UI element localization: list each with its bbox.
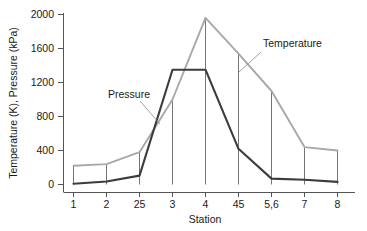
x-axis-ticks bbox=[74, 193, 338, 198]
y-axis-title: Temperature (K), Pressure (kPa) bbox=[7, 27, 19, 179]
y-tick-label-800: 800 bbox=[36, 110, 54, 122]
x-tick-label-56: 5,6 bbox=[264, 198, 279, 210]
y-tick-label-400: 400 bbox=[36, 144, 54, 156]
x-tick-label-25: 25 bbox=[134, 198, 146, 210]
x-tick-label-7: 7 bbox=[302, 198, 308, 210]
y-axis-ticks bbox=[58, 15, 64, 185]
temperature-annotation-leader bbox=[239, 52, 261, 72]
pressure-annotation-label: Pressure bbox=[108, 88, 150, 100]
x-tick-label-8: 8 bbox=[335, 198, 341, 210]
station-temperature-pressure-chart: 2000 1600 1200 800 400 0 Temperature (K)… bbox=[0, 0, 367, 231]
pressure-annotation-leader bbox=[140, 101, 160, 124]
x-axis-tick-labels: 1 2 25 3 4 45 5,6 7 8 bbox=[71, 198, 341, 210]
y-tick-label-1600: 1600 bbox=[31, 42, 55, 54]
x-tick-label-3: 3 bbox=[170, 198, 176, 210]
x-tick-label-2: 2 bbox=[104, 198, 110, 210]
y-tick-label-2000: 2000 bbox=[31, 8, 55, 20]
temperature-annotation-label: Temperature bbox=[263, 37, 322, 49]
y-tick-label-0: 0 bbox=[48, 178, 54, 190]
y-tick-label-1200: 1200 bbox=[31, 76, 55, 88]
x-tick-label-4: 4 bbox=[203, 198, 209, 210]
y-axis-tick-labels: 2000 1600 1200 800 400 0 bbox=[31, 8, 55, 190]
x-tick-label-45: 45 bbox=[233, 198, 245, 210]
x-axis-title: Station bbox=[189, 213, 222, 225]
x-tick-label-1: 1 bbox=[71, 198, 77, 210]
chart-container: 2000 1600 1200 800 400 0 Temperature (K)… bbox=[0, 0, 367, 231]
